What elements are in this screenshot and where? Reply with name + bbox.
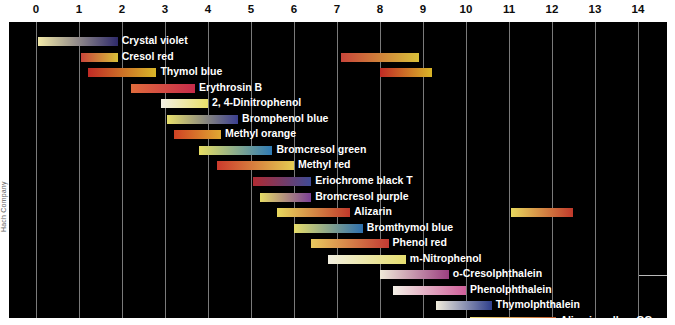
indicator-row: m-Nitrophenol [9,253,667,269]
x-axis-tick-label-3: 3 [162,2,168,16]
x-axis-tick-label-5: 5 [248,2,254,16]
indicator-row: Bromcresol purple [9,191,667,207]
indicator-bar [38,37,118,46]
indicator-label: Methyl orange [225,127,296,140]
indicator-bar [470,317,556,318]
indicator-row: Thymol blue [9,66,667,82]
source-credit: Hach Company [0,181,7,232]
indicator-bar [260,193,312,202]
indicator-bar [436,301,492,310]
x-axis-tick-label-12: 12 [546,2,559,16]
indicator-label: 2, 4-Dinitrophenol [212,96,301,109]
indicator-row: Phenolphthalein [9,284,667,300]
indicator-bar [341,53,418,62]
indicator-row: Bromcresol green [9,144,667,160]
indicator-label: Phenol red [393,236,447,249]
indicator-label: Thymol blue [160,65,222,78]
indicator-row: Methyl orange [9,128,667,144]
indicator-label: Alizarin [354,205,392,218]
ph-indicator-chart: 01234567891011121314 Crystal violetCreso… [0,0,675,325]
indicator-bar [81,53,118,62]
x-axis-tick-label-4: 4 [205,2,211,16]
plot-area: Crystal violetCresol redThymol blueEryth… [9,22,667,318]
indicator-label: o-Cresolphthalein [453,267,542,280]
indicator-row: Crystal violet [9,35,667,51]
indicator-label: Eriochrome black T [315,174,412,187]
indicator-label: Bromphenol blue [242,112,328,125]
x-axis-tick-label-11: 11 [503,2,515,16]
indicator-row: Methyl red [9,159,667,175]
indicator-row: Alizarin yellow GG [9,315,667,318]
indicator-label: Methyl red [298,158,351,171]
x-axis-tick-label-9: 9 [420,2,426,16]
indicator-row: Bromphenol blue [9,113,667,129]
indicator-bar [253,177,311,186]
indicator-bar [199,146,272,155]
indicator-bar [131,84,196,93]
x-axis-tick-label-14: 14 [632,2,645,16]
indicator-label: Thymolphthalein [496,298,580,311]
indicator-row: Phenol red [9,237,667,253]
indicator-bar [380,68,432,77]
x-axis-tick-label-1: 1 [76,2,82,16]
indicator-label: Cresol red [122,50,174,63]
indicator-label: Crystal violet [122,34,188,47]
indicator-row: Thymolphthalein [9,299,667,315]
indicator-label: Bromthymol blue [367,221,453,234]
x-axis-tick-label-0: 0 [33,2,39,16]
x-axis-tick-label-8: 8 [377,2,383,16]
indicator-bar [311,239,388,248]
x-axis-tick-label-2: 2 [119,2,125,16]
indicator-bar [393,286,466,295]
x-axis-tick-label-10: 10 [460,2,473,16]
x-axis-tick-label-6: 6 [291,2,297,16]
indicator-row: Eriochrome black T [9,175,667,191]
x-axis-tick-label-13: 13 [589,2,602,16]
indicator-label: Alizarin yellow GG [560,314,652,318]
indicator-label: m-Nitrophenol [410,252,482,265]
indicator-row: o-Cresolphthalein [9,268,667,284]
indicator-bar [380,270,449,279]
indicator-bar [167,115,238,124]
x-axis-tick-label-7: 7 [334,2,340,16]
x-axis: 01234567891011121314 [0,0,675,22]
indicator-label: Bromcresol purple [315,190,408,203]
indicator-bar [328,255,405,264]
indicator-label: Phenolphthalein [470,283,552,296]
indicator-bar [161,99,208,108]
right-margin-tick [639,275,667,276]
indicator-bar [88,68,157,77]
indicator-bar [294,224,363,233]
indicator-label: Bromcresol green [277,143,367,156]
indicator-bar [511,208,573,217]
indicator-row: Bromthymol blue [9,222,667,238]
indicator-row: Alizarin [9,206,667,222]
indicator-label: Erythrosin B [199,81,262,94]
indicator-bar [174,130,221,139]
indicator-row: Cresol red [9,51,667,67]
indicator-bar [277,208,350,217]
indicator-row: Erythrosin B [9,82,667,98]
indicator-row: 2, 4-Dinitrophenol [9,97,667,113]
indicator-bar [217,161,294,170]
